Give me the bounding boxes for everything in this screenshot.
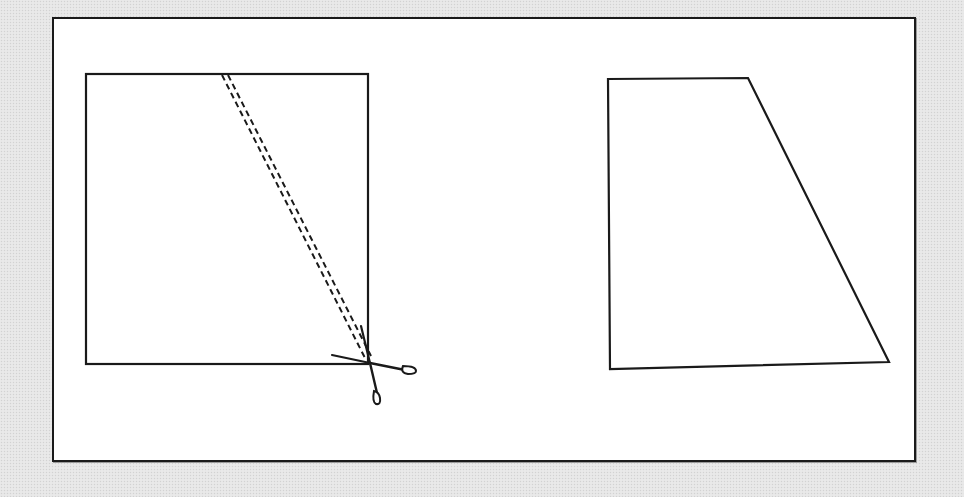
left-figure [86, 74, 416, 404]
diagram-canvas [0, 0, 964, 497]
right-figure [608, 78, 889, 369]
trapezoid-shape [608, 78, 889, 369]
cut-line-dashed [222, 75, 366, 360]
cut-line-dashed [228, 75, 371, 356]
square-shape [86, 74, 368, 364]
